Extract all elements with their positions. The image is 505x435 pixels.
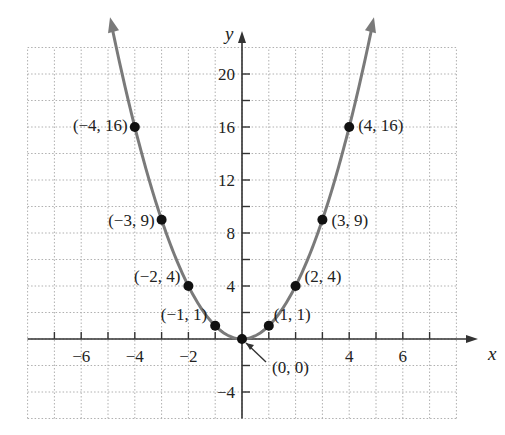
point-label: (0, 0)	[272, 358, 309, 377]
y-tick-label: −4	[217, 383, 236, 402]
data-point	[183, 281, 193, 291]
point-label: (1, 1)	[274, 305, 311, 324]
data-point	[237, 334, 247, 344]
y-tick-label: 4	[227, 277, 236, 296]
y-tick-label: 12	[218, 171, 235, 190]
data-point	[264, 321, 274, 331]
curve-arrow-right-icon	[365, 17, 376, 33]
data-point	[157, 215, 167, 225]
x-tick-label: −2	[179, 347, 197, 366]
point-label: (3, 9)	[331, 211, 368, 230]
curve-arrow-left-icon	[108, 17, 119, 33]
x-tick-label: −6	[72, 347, 90, 366]
y-tick-label: 8	[227, 224, 236, 243]
y-tick-label: 16	[218, 118, 235, 137]
point-label: (−1, 1)	[161, 305, 207, 324]
point-label: (2, 4)	[305, 267, 342, 286]
x-axis-label: x	[487, 343, 497, 364]
y-axis-label: y	[223, 23, 234, 44]
data-point	[130, 122, 140, 132]
y-tick-label: 20	[218, 65, 235, 84]
data-point	[210, 321, 220, 331]
point-label: (4, 16)	[358, 116, 403, 135]
point-label: (−4, 16)	[73, 116, 128, 135]
x-tick-label: 4	[345, 347, 354, 366]
data-point	[344, 122, 354, 132]
y-axis-arrow-icon	[238, 31, 246, 43]
data-point	[317, 215, 327, 225]
x-axis-arrow-icon	[466, 335, 478, 343]
x-tick-label: −4	[126, 347, 145, 366]
parabola-chart: xy −6−4−24620161284−4 (−4, 16)(−3, 9)(−2…	[0, 0, 505, 435]
point-label: (−3, 9)	[108, 211, 154, 230]
x-tick-label: 6	[399, 347, 408, 366]
data-point	[291, 281, 301, 291]
point-label: (−2, 4)	[134, 267, 180, 286]
